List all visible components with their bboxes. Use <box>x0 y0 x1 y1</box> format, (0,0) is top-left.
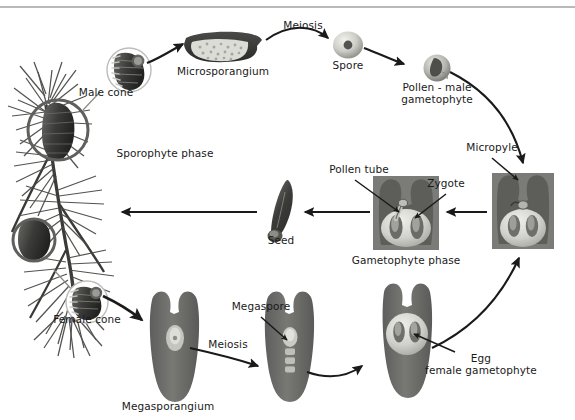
egg-gametophyte-art <box>383 284 433 398</box>
label-zygote: Zygote <box>427 178 465 190</box>
label-sporophyte-phase: Sporophyte phase <box>117 148 214 160</box>
spore-art <box>333 32 363 59</box>
arrow-megaspore-to-egg <box>307 366 362 376</box>
label-gametophyte-phase: Gametophyte phase <box>352 255 461 267</box>
label-micropyle: Micropyle <box>466 142 517 154</box>
label-seed: Seed <box>268 235 295 247</box>
label-megaspore: Megaspore <box>232 301 291 313</box>
megasporangium-art <box>150 292 199 402</box>
life-cycle-diagram: Meiosis Microsporangium Spore Pollen - m… <box>0 0 575 420</box>
pollen-art <box>424 55 451 82</box>
label-microsporangium: Microsporangium <box>177 66 269 78</box>
branch-male-cone <box>28 100 88 160</box>
label-pollen-tube: Pollen tube <box>329 164 389 176</box>
label-pollen-male-gametophyte: Pollen - male gametophyte <box>401 82 473 106</box>
arrow-egg-to-ovule <box>432 258 519 348</box>
arrow-spore-to-pollen <box>364 48 404 64</box>
label-male-cone: Male cone <box>79 87 133 99</box>
branch-female-cone <box>13 219 55 261</box>
label-meiosis-top: Meiosis <box>283 20 322 32</box>
arrow-male-cone-to-microsporangium <box>147 44 183 63</box>
label-meiosis-bottom: Meiosis <box>208 339 247 351</box>
label-spore: Spore <box>333 60 364 72</box>
microsporangium-art <box>184 32 262 62</box>
label-megasporangium: Megasporangium <box>122 401 214 413</box>
ovule-micropyle-art <box>492 173 554 249</box>
label-egg-female-gametophyte: Egg female gametophyte <box>425 353 537 377</box>
label-female-cone: Female cone <box>53 314 121 326</box>
